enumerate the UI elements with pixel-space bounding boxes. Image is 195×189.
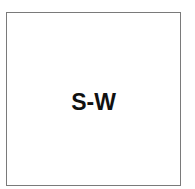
diagram-box: S-W	[6, 12, 181, 186]
box-label: S-W	[7, 91, 180, 114]
